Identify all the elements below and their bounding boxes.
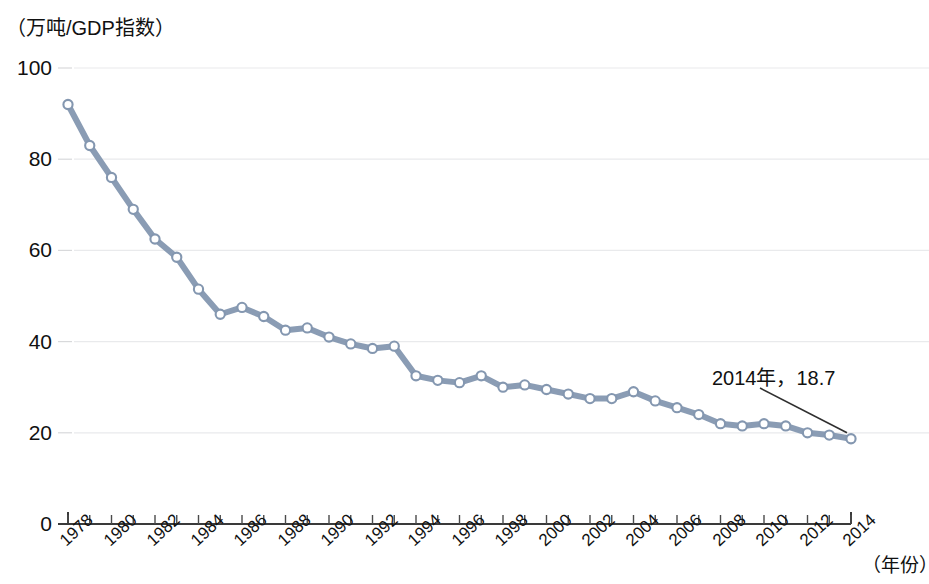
data-point-marker — [672, 403, 681, 412]
x-axis-unit-label: （年份） — [862, 550, 929, 577]
data-point-marker — [759, 419, 768, 428]
data-point-marker — [324, 332, 333, 341]
data-point-marker — [846, 434, 855, 443]
data-point-marker — [738, 421, 747, 430]
data-point-marker — [564, 389, 573, 398]
data-point-marker — [781, 421, 790, 430]
data-point-marker — [150, 234, 159, 243]
y-tick-label: 100 — [0, 56, 52, 80]
y-tick-label: 20 — [0, 421, 52, 445]
data-point-marker — [281, 326, 290, 335]
data-point-marker — [629, 387, 638, 396]
data-point-marker — [716, 419, 725, 428]
data-point-markers — [63, 100, 855, 443]
data-point-marker — [237, 303, 246, 312]
data-point-marker — [542, 385, 551, 394]
data-point-marker — [455, 378, 464, 387]
y-tick-label: 0 — [0, 512, 52, 536]
data-point-marker — [390, 342, 399, 351]
data-point-marker — [368, 344, 377, 353]
data-point-marker — [85, 141, 94, 150]
data-point-marker — [411, 371, 420, 380]
data-point-marker — [520, 380, 529, 389]
data-point-marker — [803, 428, 812, 437]
data-point-marker — [477, 371, 486, 380]
y-tick-label: 40 — [0, 330, 52, 354]
line-chart-plot — [0, 0, 929, 584]
data-point-marker — [607, 394, 616, 403]
y-tick-label: 80 — [0, 147, 52, 171]
data-point-marker — [694, 410, 703, 419]
data-point-marker — [651, 396, 660, 405]
data-point-marker — [63, 100, 72, 109]
y-tick-label: 60 — [0, 238, 52, 262]
data-point-marker — [107, 173, 116, 182]
data-point-marker — [259, 312, 268, 321]
data-point-annotation: 2014年，18.7 — [712, 362, 835, 391]
data-point-marker — [303, 323, 312, 332]
data-point-marker — [194, 285, 203, 294]
data-point-marker — [433, 376, 442, 385]
data-point-marker — [172, 253, 181, 262]
data-point-marker — [346, 339, 355, 348]
y-axis-tick-marks — [58, 68, 72, 524]
data-point-marker — [585, 394, 594, 403]
data-point-marker — [216, 310, 225, 319]
data-point-marker — [498, 383, 507, 392]
chart-container: （万吨/GDP指数） 020406080100 1978198019821984… — [0, 0, 929, 584]
data-point-marker — [129, 205, 138, 214]
data-point-marker — [825, 430, 834, 439]
